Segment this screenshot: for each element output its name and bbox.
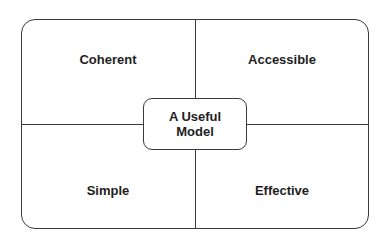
- center-label-line1: A Useful: [169, 109, 221, 124]
- quadrant-effective: Effective: [195, 183, 369, 198]
- quadrant-simple: Simple: [21, 183, 195, 198]
- quadrant-coherent: Coherent: [21, 52, 195, 67]
- center-label-line2: Model: [176, 124, 214, 139]
- center-box: A Useful Model: [143, 98, 247, 150]
- quadrant-accessible: Accessible: [195, 52, 369, 67]
